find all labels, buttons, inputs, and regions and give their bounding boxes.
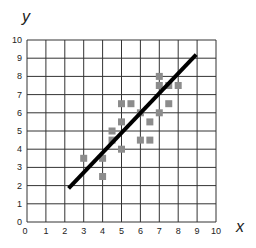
data-point-marker bbox=[137, 137, 144, 144]
x-axis-label: x bbox=[235, 218, 245, 235]
scatter-chart: 012345678910 012345678910 y x bbox=[0, 0, 256, 248]
y-tick-label: 7 bbox=[17, 90, 22, 100]
data-point-marker bbox=[175, 82, 182, 89]
y-tick-label: 9 bbox=[17, 53, 22, 63]
data-point-marker bbox=[165, 100, 172, 107]
data-point-marker bbox=[127, 100, 134, 107]
data-point-marker bbox=[118, 118, 125, 125]
data-point-marker bbox=[156, 109, 163, 116]
y-tick-label: 10 bbox=[12, 35, 22, 45]
x-tick-label: 6 bbox=[138, 226, 143, 236]
y-tick-label: 3 bbox=[17, 162, 22, 172]
x-tick-label: 5 bbox=[119, 226, 124, 236]
data-point-marker bbox=[109, 128, 116, 135]
x-tick-label: 8 bbox=[176, 226, 181, 236]
data-point-marker bbox=[99, 173, 106, 180]
data-point-marker bbox=[156, 73, 163, 80]
y-axis-label: y bbox=[21, 8, 31, 25]
x-tick-label: 7 bbox=[157, 226, 162, 236]
y-tick-label: 4 bbox=[17, 144, 22, 154]
x-tick-label: 3 bbox=[81, 226, 86, 236]
y-tick-label: 0 bbox=[17, 217, 22, 227]
x-tick-label: 2 bbox=[62, 226, 67, 236]
x-tick-label: 10 bbox=[211, 226, 221, 236]
y-tick-label: 2 bbox=[17, 181, 22, 191]
data-points bbox=[80, 73, 182, 180]
x-tick-label: 1 bbox=[43, 226, 48, 236]
y-axis-ticks: 012345678910 bbox=[12, 35, 22, 227]
y-tick-label: 1 bbox=[17, 199, 22, 209]
best-fit-line bbox=[69, 55, 197, 189]
x-tick-label: 0 bbox=[22, 226, 27, 236]
data-point-marker bbox=[118, 146, 125, 153]
best-fit-line-path bbox=[69, 55, 197, 189]
data-point-marker bbox=[146, 118, 153, 125]
data-point-marker bbox=[80, 155, 87, 162]
y-tick-label: 8 bbox=[17, 71, 22, 81]
x-tick-label: 4 bbox=[100, 226, 105, 236]
data-point-marker bbox=[118, 100, 125, 107]
x-axis-ticks: 012345678910 bbox=[22, 226, 221, 236]
x-tick-label: 9 bbox=[195, 226, 200, 236]
data-point-marker bbox=[146, 137, 153, 144]
y-tick-label: 5 bbox=[17, 126, 22, 136]
y-tick-label: 6 bbox=[17, 108, 22, 118]
